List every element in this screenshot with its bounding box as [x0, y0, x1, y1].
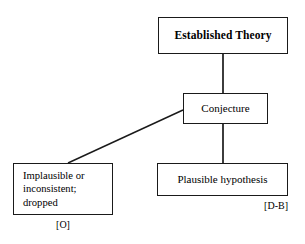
- node-implausible-line-2: inconsistent;: [23, 182, 112, 196]
- node-implausible-dropped-label: Implausible or inconsistent; dropped: [23, 169, 112, 210]
- node-plausible-hypothesis[interactable]: Plausible hypothesis: [157, 163, 288, 196]
- node-established-theory[interactable]: Established Theory: [158, 17, 288, 54]
- diagram-canvas: Established Theory Conjecture Implausibl…: [0, 0, 305, 244]
- tag-plausible-outcome: [D-B]: [157, 200, 288, 211]
- node-conjecture-label: Conjecture: [184, 102, 267, 115]
- node-implausible-line-3: dropped: [23, 196, 112, 210]
- tag-implausible-outcome: [O]: [13, 219, 113, 230]
- node-implausible-line-1: Implausible or: [23, 169, 112, 183]
- edge-conjecture-to-implausible: [68, 110, 183, 163]
- node-established-theory-label: Established Theory: [159, 29, 287, 43]
- node-conjecture[interactable]: Conjecture: [183, 93, 268, 124]
- node-implausible-dropped[interactable]: Implausible or inconsistent; dropped: [13, 163, 113, 215]
- node-plausible-hypothesis-label: Plausible hypothesis: [158, 173, 287, 186]
